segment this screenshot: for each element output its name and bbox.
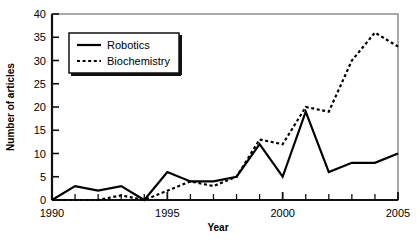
x-tick-label: 1990 (40, 207, 64, 219)
y-tick-label: 25 (34, 78, 46, 90)
legend-box-shadow-right (179, 35, 182, 75)
legend-label-robotics: Robotics (107, 39, 150, 51)
line-chart: 0510152025303540 1990199520002005 Roboti… (0, 0, 420, 240)
y-tick-label: 5 (40, 171, 46, 183)
x-tick-label: 2005 (386, 207, 410, 219)
chart-figure: 0510152025303540 1990199520002005 Roboti… (0, 0, 420, 240)
legend-label-biochemistry: Biochemistry (107, 55, 170, 67)
x-tick-label: 2000 (270, 207, 294, 219)
y-tick-label: 40 (34, 8, 46, 20)
y-tick-label: 30 (34, 55, 46, 67)
y-tick-label: 35 (34, 31, 46, 43)
chart-background (0, 0, 420, 240)
y-tick-label: 10 (34, 148, 46, 160)
chart-legend: Robotics Biochemistry (69, 33, 182, 76)
legend-box-shadow-bottom (71, 73, 181, 76)
y-tick-label: 15 (34, 124, 46, 136)
y-tick-label: 20 (34, 101, 46, 113)
x-tick-label: 1995 (155, 207, 179, 219)
y-axis-title: Number of articles (5, 63, 16, 151)
y-tick-label: 0 (40, 194, 46, 206)
x-axis-title: Year (207, 222, 228, 233)
